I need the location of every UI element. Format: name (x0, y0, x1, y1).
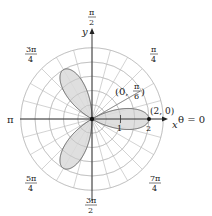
point-0-pi6-left: (0, (115, 86, 128, 97)
point-0-pi6-num: π (134, 82, 139, 91)
num: 5π (26, 174, 36, 183)
y-axis-arrow-icon (90, 28, 95, 34)
radial-tick-label-1: 1 (117, 124, 122, 133)
angle-label-pi-over-4: π 4 (150, 45, 158, 64)
angle-label-3pi-over-4: 3π 4 (25, 45, 37, 64)
den: 4 (151, 55, 156, 64)
angle-label-3pi-over-2: 3π 2 (85, 196, 97, 215)
x-axis-arrow-icon (162, 117, 168, 122)
angle-label-7pi-over-4: 7π 4 (149, 174, 161, 193)
pi-label: π (7, 114, 14, 125)
den: 2 (88, 206, 93, 215)
den: 4 (152, 184, 157, 193)
den: 2 (89, 18, 94, 27)
point-2-0 (147, 117, 151, 121)
num: π (89, 8, 94, 17)
point-2-0-label: (2, 0) (150, 106, 174, 116)
polar-plot: x y θ = 0 π 1 2 (2, 0) (0, π 6 ) π 2 π 4… (0, 0, 212, 216)
radial-tick-label-2: 2 (146, 124, 151, 133)
num: 3π (86, 196, 96, 205)
point-0-pi6-den: 6 (134, 92, 139, 101)
theta-zero-label: θ = 0 (178, 114, 205, 125)
grid-ray (92, 119, 110, 188)
angle-label-5pi-over-4: 5π 4 (25, 174, 37, 193)
grid-ray (92, 50, 110, 119)
point-0-pi6-right: ) (141, 86, 145, 97)
den: 4 (28, 55, 33, 64)
num: 3π (26, 45, 36, 54)
num: 7π (150, 174, 160, 183)
origin-point (90, 117, 94, 121)
den: 4 (28, 184, 33, 193)
point-0-pi6-label: (0, π 6 ) (115, 82, 145, 101)
num: π (151, 45, 156, 54)
angle-label-pi-over-2: π 2 (88, 8, 96, 27)
y-axis-label: y (81, 26, 88, 37)
